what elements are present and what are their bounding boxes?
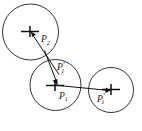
label-p1-prime-right-subscript: 1 xyxy=(101,98,104,105)
svg-text:P1: P1 xyxy=(58,91,68,103)
geometry-diagram: P2 P'1 P1 P'1 xyxy=(0,0,142,131)
label-p1: P1 xyxy=(58,91,68,103)
label-p1-prime-right: P'1 xyxy=(96,92,105,105)
cross-marker-top-left xyxy=(21,26,39,37)
label-p1-prime: P'1 xyxy=(56,61,65,74)
label-p1-prime-subscript: 1 xyxy=(61,67,64,74)
svg-text:P'1: P'1 xyxy=(96,92,105,105)
vector-arrow-to-p1-prime xyxy=(45,51,58,86)
label-p2-subscript: 2 xyxy=(47,39,50,46)
svg-text:P2: P2 xyxy=(40,34,50,46)
label-p2: P2 xyxy=(40,34,50,46)
cross-marker-right xyxy=(102,84,120,95)
svg-text:P'1: P'1 xyxy=(56,61,65,74)
figure-root: P2 P'1 P1 P'1 xyxy=(0,0,142,131)
label-p1-subscript: 1 xyxy=(65,95,68,102)
